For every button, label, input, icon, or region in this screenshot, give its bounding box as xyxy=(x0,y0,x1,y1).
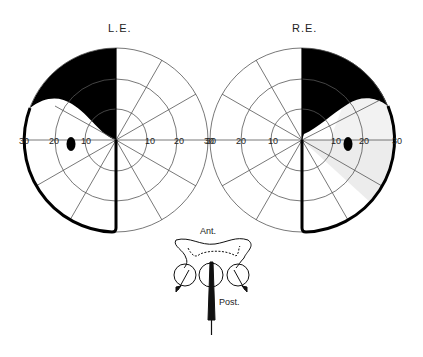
right-eye-tick-10-right: 10 xyxy=(331,136,341,146)
left-eye-tick-20-right: 20 xyxy=(174,136,184,146)
left-eye-tick-10-right: 10 xyxy=(145,136,155,146)
right-eye-tick-30-left: 30 xyxy=(206,136,216,146)
posterior-label: Post. xyxy=(219,297,240,307)
anterior-label: Ant. xyxy=(200,226,216,236)
right-eye-field: R.E. 30 20 10 10 20 30 xyxy=(206,22,402,232)
left-eye-superior-temporal-defect xyxy=(30,48,116,140)
chiasm-schematic: Ant. Post. xyxy=(174,226,251,335)
left-eye-blind-spot xyxy=(67,137,76,151)
right-eye-tick-20-right: 20 xyxy=(359,136,369,146)
left-eye-tick-30-left: 30 xyxy=(19,136,29,146)
right-eye-tick-30-right: 30 xyxy=(392,136,402,146)
right-eye-label: R.E. xyxy=(292,22,317,34)
left-eye-tick-20-left: 20 xyxy=(49,136,59,146)
right-eye-tick-10-left: 10 xyxy=(268,136,278,146)
visual-field-figure: L.E. 30 20 10 10 20 30 xyxy=(0,0,423,357)
right-eye-tick-20-left: 20 xyxy=(236,136,246,146)
left-eye-tick-10-left: 10 xyxy=(81,136,91,146)
right-eye-blind-spot xyxy=(344,137,353,151)
left-eye-field: L.E. 30 20 10 10 20 30 xyxy=(19,22,214,232)
left-eye-label: L.E. xyxy=(108,22,132,34)
